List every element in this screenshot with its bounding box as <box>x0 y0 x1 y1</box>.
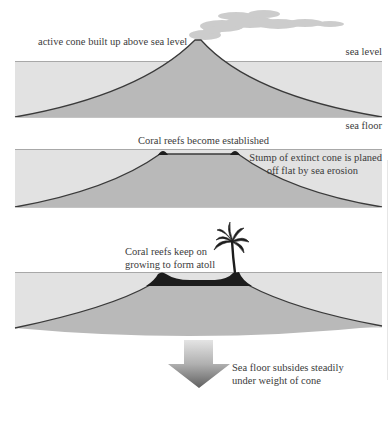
panel-stage-3 <box>15 222 382 336</box>
down-arrow-icon <box>168 340 230 388</box>
smoke-plume-icon <box>189 10 344 40</box>
palm-tree-icon <box>214 222 249 273</box>
label-sea-level: sea level <box>346 45 382 58</box>
label-stump-line2: off flat by sea erosion <box>267 164 358 177</box>
label-active-cone: active cone built up above sea level <box>38 35 187 48</box>
label-stump-line1: Stump of extinct cone is planed <box>249 151 382 164</box>
label-subside-line1: Sea floor subsides steadily <box>232 361 344 374</box>
label-sea-floor: sea floor <box>346 119 382 132</box>
panel-stage-1 <box>15 10 382 118</box>
page-edge-line <box>387 160 388 380</box>
label-coral-reefs-established: Coral reefs become established <box>138 134 269 147</box>
label-atoll-line2: growing to form atoll <box>125 258 215 271</box>
label-subside-line2: under weight of cone <box>232 374 321 387</box>
label-atoll-line1: Coral reefs keep on <box>125 245 207 258</box>
